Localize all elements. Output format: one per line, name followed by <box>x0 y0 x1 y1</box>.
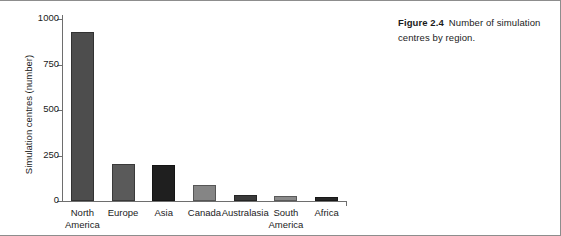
bar-chart: Simulation centres (number) 025050075010… <box>0 1 390 236</box>
figure-container: Figure 2.4Number of simulation centres b… <box>0 0 561 236</box>
y-axis-tick-label: 750 <box>43 58 59 69</box>
y-axis-tick-label: 0 <box>54 194 59 205</box>
bar <box>274 196 297 201</box>
bar <box>234 195 257 201</box>
plot-area: 02505007501000 NorthAmericaEuropeAsiaCan… <box>62 19 347 201</box>
bar <box>112 164 135 201</box>
x-axis-end-tick <box>346 201 347 206</box>
y-axis-title: Simulation centres (number) <box>23 25 34 205</box>
bar <box>315 197 338 201</box>
x-axis-label: Africa <box>302 207 351 219</box>
x-axis-line <box>62 201 347 202</box>
y-axis-tick-label: 1000 <box>38 12 59 23</box>
bar <box>193 185 216 201</box>
y-axis-tick-label: 500 <box>43 103 59 114</box>
bar <box>152 165 175 201</box>
y-axis-line <box>62 15 63 202</box>
figure-number: Figure 2.4 <box>398 17 444 28</box>
y-axis-tick-label: 250 <box>43 149 59 160</box>
bar <box>71 32 94 201</box>
figure-caption: Figure 2.4Number of simulation centres b… <box>398 15 550 45</box>
